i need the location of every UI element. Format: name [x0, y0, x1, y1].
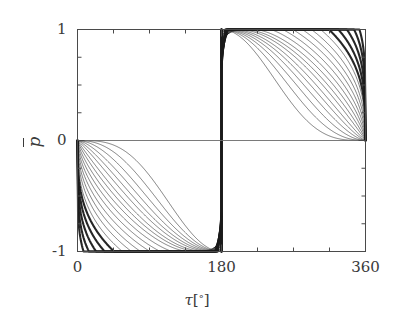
x-tick-label-0: 0 [73, 260, 83, 275]
overbar [23, 138, 24, 148]
y-tick-label-minus1: -1 [0, 244, 67, 259]
x-tick-label-180: 180 [207, 260, 236, 275]
bracket-close: ] [204, 291, 210, 309]
p-bar-symbol: p [24, 137, 44, 148]
x-axis-title: τ[°] [184, 291, 209, 309]
y-axis-title: p [14, 122, 54, 162]
x-tick-label-360: 360 [351, 260, 380, 275]
chart-figure: 1 0 -1 0 180 360 p τ[°] [0, 0, 394, 324]
plot-area [0, 0, 394, 324]
y-axis-title-letter: p [24, 137, 44, 148]
tau-symbol: τ [184, 291, 192, 309]
y-axis-title-wrap: p [14, 122, 54, 162]
y-tick-label-1: 1 [0, 22, 67, 37]
x-axis-title-wrap: τ[°] [0, 290, 394, 309]
